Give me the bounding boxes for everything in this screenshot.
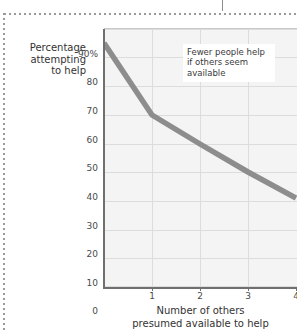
y-tick-label-20: 20 xyxy=(72,250,98,259)
dotted-border-top xyxy=(4,13,297,15)
dotted-border-left xyxy=(3,13,5,330)
y-tick-label-0: 0 xyxy=(72,307,98,316)
y-tick-label-80: 80 xyxy=(72,78,98,87)
figure-frame: Percentage attempting to help 90% 80 70 … xyxy=(0,0,297,330)
x-axis-title: Number of others presumed available to h… xyxy=(104,305,297,330)
x-tick-label-1: 1 xyxy=(144,292,160,301)
y-axis-line xyxy=(103,29,105,287)
crop-mark-tick xyxy=(222,0,223,11)
y-tick-label-70: 70 xyxy=(72,107,98,116)
y-tick-label-30: 30 xyxy=(72,222,98,231)
y-tick-label-10: 10 xyxy=(72,279,98,288)
y-tick-label-90: 90% xyxy=(66,50,98,59)
x-tick-label-4: 4 xyxy=(288,292,297,301)
y-axis-title: Percentage attempting to help xyxy=(8,42,86,77)
x-tick-label-3: 3 xyxy=(240,292,256,301)
annotation-callout: Fewer people help if others seem availab… xyxy=(183,44,275,82)
y-tick-label-60: 60 xyxy=(72,136,98,145)
y-tick-label-50: 50 xyxy=(72,164,98,173)
x-tick-label-2: 2 xyxy=(192,292,208,301)
y-tick-label-40: 40 xyxy=(72,193,98,202)
